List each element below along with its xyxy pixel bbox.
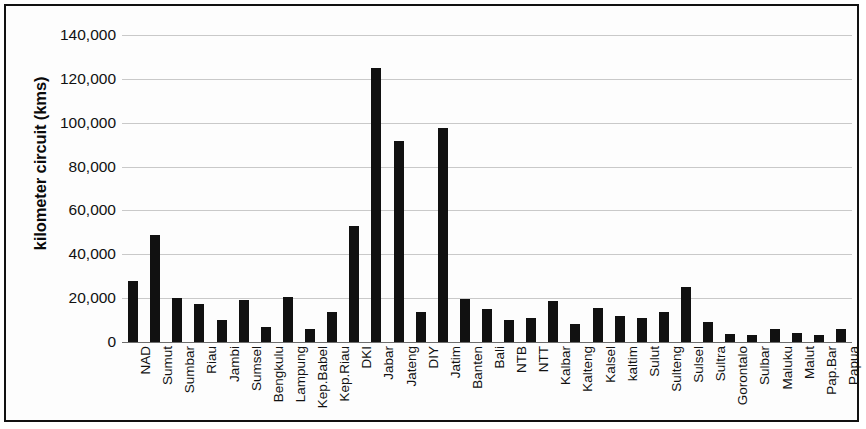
y-axis-tick-label: 0 bbox=[28, 333, 116, 351]
x-axis-tick-label: Riau bbox=[204, 346, 219, 374]
x-axis-tick-label: NAD bbox=[138, 346, 153, 375]
bar bbox=[305, 329, 315, 342]
x-axis-tick-label: Sumsel bbox=[249, 346, 264, 391]
x-axis-tick-label: Jambi bbox=[227, 346, 242, 382]
bar bbox=[770, 329, 780, 342]
x-axis-tick-label: NTB bbox=[514, 346, 529, 373]
x-axis-tick-label: Jatim bbox=[448, 346, 463, 378]
x-axis-tick-label: Kalsel bbox=[603, 346, 618, 383]
bar bbox=[416, 312, 426, 342]
bar bbox=[217, 320, 227, 342]
y-axis-tick-label: 40,000 bbox=[28, 245, 116, 263]
bar bbox=[792, 333, 802, 342]
bar bbox=[548, 301, 558, 342]
x-axis-tick-label: Pap.Bar bbox=[824, 346, 839, 395]
bar bbox=[570, 324, 580, 342]
x-axis-tick-label: Bali bbox=[492, 346, 507, 369]
bar bbox=[703, 322, 713, 342]
x-axis-tick-label: NTT bbox=[536, 346, 551, 372]
bar bbox=[725, 334, 735, 342]
plot-area bbox=[122, 35, 852, 342]
y-axis-tick-label: 140,000 bbox=[28, 26, 116, 44]
x-axis-tick-label: Papua bbox=[846, 346, 861, 385]
x-axis-tick-label: Kalteng bbox=[580, 346, 595, 392]
y-axis-tick-label: 20,000 bbox=[28, 289, 116, 307]
x-axis-tick-label: DIY bbox=[426, 346, 441, 369]
bar bbox=[128, 281, 138, 342]
bar bbox=[814, 335, 824, 342]
bar bbox=[239, 300, 249, 342]
bar bbox=[504, 320, 514, 342]
x-axis-tick-label: Kep.Babel bbox=[315, 346, 330, 408]
x-axis-tick-label: Kalbar bbox=[558, 346, 573, 385]
bar bbox=[438, 128, 448, 342]
gridline bbox=[122, 342, 852, 343]
bar bbox=[593, 308, 603, 342]
bar-chart: kilometer circuit (kms) 020,00040,00060,… bbox=[6, 6, 857, 420]
x-axis-tick-label: Maluku bbox=[780, 346, 795, 390]
y-axis-tick-labels: 020,00040,00060,00080,000100,000120,0001… bbox=[28, 6, 116, 420]
y-axis-tick-label: 80,000 bbox=[28, 158, 116, 176]
bar bbox=[747, 335, 757, 342]
y-axis-tick-label: 60,000 bbox=[28, 201, 116, 219]
x-axis-tick-label: kaltim bbox=[625, 346, 640, 381]
x-axis-tick-label: Gorontalo bbox=[735, 346, 750, 405]
x-axis-tick-label: Sulbar bbox=[757, 346, 772, 385]
bar bbox=[637, 318, 647, 342]
x-axis-tick-label: Banten bbox=[470, 346, 485, 389]
x-axis-tick-labels: NADSumutSumbarRiauJambiSumselBengkuluLam… bbox=[122, 346, 852, 429]
x-axis-tick-label: Sulut bbox=[647, 346, 662, 377]
bar bbox=[283, 297, 293, 342]
bar bbox=[681, 287, 691, 342]
bar-series bbox=[122, 35, 852, 342]
bar bbox=[349, 226, 359, 342]
y-axis-tick-label: 100,000 bbox=[28, 114, 116, 132]
x-axis-tick-label: DKI bbox=[359, 346, 374, 369]
bar bbox=[659, 312, 669, 342]
x-axis-tick-label: Bengkulu bbox=[271, 346, 286, 402]
bar bbox=[371, 68, 381, 342]
bar bbox=[526, 318, 536, 342]
bar bbox=[194, 304, 204, 342]
x-axis-tick-label: Jabar bbox=[381, 346, 396, 380]
x-axis-tick-label: Malut bbox=[802, 346, 817, 379]
x-axis-tick-label: Sultra bbox=[713, 346, 728, 381]
bar bbox=[394, 141, 404, 342]
x-axis-tick-label: Jateng bbox=[404, 346, 419, 387]
bar bbox=[150, 235, 160, 342]
figure-frame: kilometer circuit (kms) 020,00040,00060,… bbox=[4, 4, 859, 422]
x-axis-tick-label: Lampung bbox=[293, 346, 308, 402]
x-axis-tick-label: Sulsel bbox=[691, 346, 706, 383]
bar bbox=[261, 327, 271, 342]
bar bbox=[836, 329, 846, 342]
x-axis-tick-label: Sumut bbox=[160, 346, 175, 385]
bar bbox=[482, 309, 492, 342]
bar bbox=[615, 316, 625, 342]
bar bbox=[460, 299, 470, 342]
x-axis-tick-label: Sumbar bbox=[182, 346, 197, 393]
x-axis-tick-label: Kep.Riau bbox=[337, 346, 352, 402]
y-axis-tick-label: 120,000 bbox=[28, 70, 116, 88]
x-axis-tick-label: Sulteng bbox=[669, 346, 684, 392]
bar bbox=[327, 312, 337, 342]
bar bbox=[172, 298, 182, 342]
